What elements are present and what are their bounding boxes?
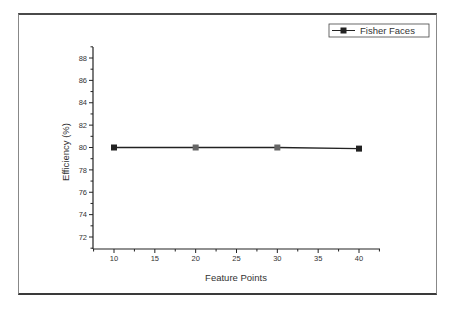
data-point-marker [274,145,280,151]
y-tick-label: 80 [79,143,87,152]
y-tick-label: 76 [79,188,87,197]
y-tick-label: 84 [79,98,87,107]
x-axis-title: Feature Points [205,272,267,283]
legend-label: Fisher Faces [360,25,415,36]
series-line [114,148,359,149]
x-tick-label: 35 [314,254,322,263]
x-tick-label: 10 [110,254,118,263]
axes: 72747678808284868810152025303540 [79,47,380,263]
legend-square-marker-icon [341,28,347,34]
x-tick-label: 15 [151,254,159,263]
x-tick-label: 25 [232,254,240,263]
plot-area [111,145,362,152]
y-tick-label: 82 [79,121,87,130]
y-tick-label: 72 [79,233,87,242]
y-tick-label: 86 [79,76,87,85]
y-tick-label: 88 [79,54,87,63]
x-tick-label: 30 [273,254,281,263]
y-axis-title: Efficiency (%) [60,123,71,181]
data-point-marker [193,145,199,151]
data-point-marker [356,146,362,152]
data-point-marker [111,145,117,151]
legend: Fisher Faces [329,24,429,37]
x-tick-label: 20 [191,254,199,263]
x-tick-label: 40 [355,254,363,263]
y-tick-label: 78 [79,166,87,175]
line-chart: 72747678808284868810152025303540 Fisher … [0,0,453,313]
y-tick-label: 74 [79,210,87,219]
